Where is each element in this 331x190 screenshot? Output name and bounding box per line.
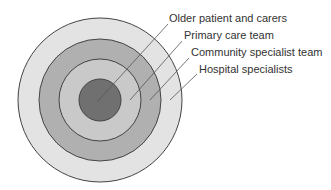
core-older-patient-and-carers xyxy=(79,79,121,121)
concentric-circles-diagram xyxy=(0,0,331,190)
label-older-patient-and-carers: Older patient and carers xyxy=(169,12,287,24)
label-primary-care-team: Primary care team xyxy=(184,29,274,41)
label-hospital-specialists: Hospital specialists xyxy=(199,63,293,75)
label-community-specialist-team: Community specialist team xyxy=(191,46,322,58)
